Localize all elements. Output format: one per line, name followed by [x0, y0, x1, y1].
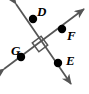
point-label-d: D [37, 5, 46, 18]
point-e [54, 59, 62, 67]
point-label-e: E [66, 54, 75, 67]
point-d [29, 15, 37, 23]
point-label-g: G [11, 44, 20, 57]
point-label-f: F [67, 29, 76, 42]
point-f [58, 25, 66, 33]
geometry-figure: D F G E [0, 0, 89, 94]
